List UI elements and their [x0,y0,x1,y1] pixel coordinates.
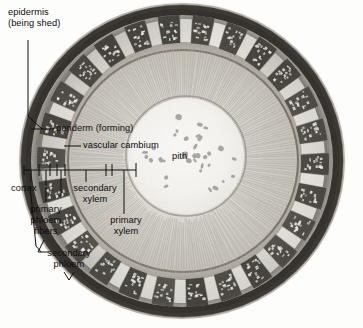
label-secondary-phloem: secondary phloem [41,248,97,270]
label-primary-phloem-fibers-line3: fibers [21,226,71,237]
label-epidermis-line1: epidermis [8,7,60,18]
label-periderm: periderm (forming) [56,123,133,134]
label-epidermis-line2: (being shed) [8,18,60,29]
label-epidermis: epidermis (being shed) [8,7,60,29]
label-primary-phloem-fibers-line2: phloem [21,215,71,226]
label-secondary-xylem-line2: xylem [68,194,122,205]
label-primary-phloem-fibers-line1: primary [21,204,71,215]
label-primary-xylem: primary xylem [104,215,148,237]
label-secondary-xylem-line1: secondary [68,183,122,194]
label-primary-xylem-line2: xylem [104,226,148,237]
label-primary-phloem-fibers: primary phloem fibers [21,204,71,238]
figure-canvas: epidermis (being shed) periderm (forming… [0,0,363,328]
label-vascular-cambium: vascular cambium [83,140,159,151]
label-secondary-phloem-line2: phloem [41,259,97,270]
label-cortex: cortex [11,183,37,194]
label-pith: pith [172,151,187,162]
label-secondary-phloem-line1: secondary [41,248,97,259]
label-secondary-xylem: secondary xylem [68,183,122,205]
label-primary-xylem-line1: primary [104,215,148,226]
